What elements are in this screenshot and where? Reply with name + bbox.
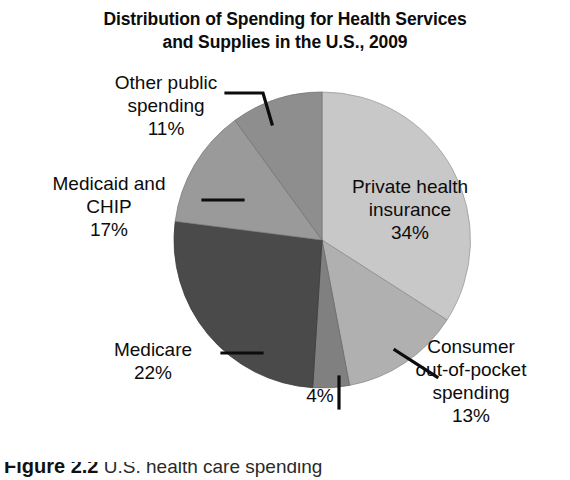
label-consumer-line2: out-of-pocket [378,358,564,381]
chart-page: Distribution of Spending for Health Serv… [0,0,570,480]
pie-label-medicare: Medicare 22% [78,338,228,384]
label-medicaid-line2: CHIP [14,195,204,218]
label-medicare-value: 22% [78,361,228,384]
pie-label-other-public-spending: Other public spending 11% [86,71,246,140]
label-medicaid-value: 17% [14,218,204,241]
label-other-public-value: 11% [86,117,246,140]
label-consumer-line1: Consumer [378,335,564,358]
label-private-line1: Private health [330,175,490,198]
label-consumer-value: 13% [378,404,564,427]
figure-caption-text: U.S. health care spending [104,462,323,477]
label-consumer-line3: spending [378,381,564,404]
pie-label-consumer-out-of-pocket: Consumer out-of-pocket spending 13% [378,335,564,427]
label-medicare-line1: Medicare [78,338,228,361]
pie-label-private-health-insurance: Private health insurance 34% [330,175,490,244]
pie-label-four-percent: 4% [290,384,350,407]
label-private-value: 34% [330,221,490,244]
pie-label-medicaid-chip: Medicaid and CHIP 17% [14,172,204,241]
label-four-percent-value: 4% [290,384,350,407]
label-private-line2: insurance [330,198,490,221]
figure-caption: Figure 2.2 U.S. health care spending [0,462,570,480]
label-other-public-line1: Other public [86,71,246,94]
label-medicaid-line1: Medicaid and [14,172,204,195]
label-other-public-line2: spending [86,94,246,117]
figure-number: Figure 2.2 [4,462,98,477]
